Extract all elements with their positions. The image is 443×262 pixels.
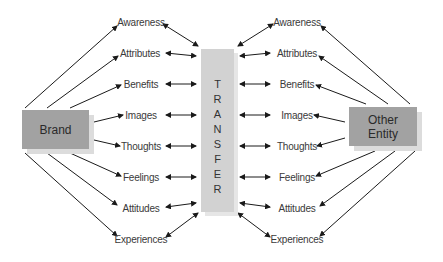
- transfer-letter: S: [201, 137, 234, 152]
- left-item-experiences: Experiences: [115, 234, 168, 245]
- right-item-experiences: Experiences: [271, 234, 324, 245]
- other-entity-box: Other Entity: [349, 107, 417, 146]
- left-item-attitudes: Attitudes: [122, 203, 159, 214]
- right-item-images: Images: [281, 110, 313, 121]
- transfer-letter: F: [201, 152, 234, 167]
- transfer-letter: R: [201, 182, 234, 197]
- transfer-letter: E: [201, 167, 234, 182]
- transfer-letter: T: [201, 77, 234, 92]
- transfer-label: T R A N S F E R: [201, 77, 234, 197]
- right-item-attitudes: Attitudes: [278, 203, 315, 214]
- right-item-benefits: Benefits: [280, 79, 315, 90]
- right-item-feelings: Feelings: [279, 172, 315, 183]
- right-item-awareness: Awareness: [273, 17, 321, 28]
- right-item-attributes: Attributes: [277, 48, 317, 59]
- transfer-bar: T R A N S F E R: [201, 49, 234, 212]
- left-item-awareness: Awareness: [117, 17, 165, 28]
- left-item-attributes: Attributes: [120, 48, 160, 59]
- left-item-feelings: Feelings: [123, 172, 159, 183]
- transfer-letter: R: [201, 92, 234, 107]
- left-item-benefits: Benefits: [124, 79, 159, 90]
- transfer-letter: A: [201, 107, 234, 122]
- other-entity-label-line2: Entity: [368, 127, 398, 141]
- brand-label: Brand: [39, 123, 71, 137]
- transfer-letter: N: [201, 122, 234, 137]
- left-item-images: Images: [125, 110, 157, 121]
- brand-box: Brand: [22, 110, 89, 149]
- other-entity-label-line1: Other: [368, 113, 398, 127]
- left-item-thoughts: Thoughts: [121, 141, 161, 152]
- right-item-thoughts: Thoughts: [277, 141, 317, 152]
